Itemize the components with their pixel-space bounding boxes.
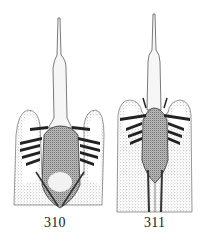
plate-figures <box>0 0 205 241</box>
figure-number-311: 311 <box>144 215 165 231</box>
figure-311 <box>117 14 192 212</box>
figure-310 <box>14 18 104 208</box>
figure-number-310: 310 <box>44 215 66 231</box>
